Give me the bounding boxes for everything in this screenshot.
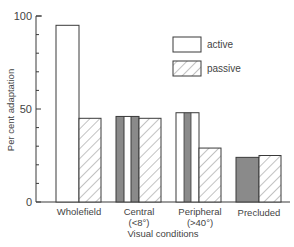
- legend-label-active: active: [207, 39, 234, 50]
- bars: [56, 25, 281, 202]
- y-tick-label-0: 0: [26, 196, 32, 208]
- legend: active passive: [173, 37, 241, 76]
- y-axis-label: Per cent adaptation: [5, 69, 16, 151]
- bar-passive-wholefield: [79, 118, 101, 202]
- x-category-peripheral: Peripheral: [178, 206, 221, 217]
- y-ticks: [36, 16, 41, 202]
- x-axis: Wholefield Central (<8°) Peripheral (>40…: [36, 202, 290, 239]
- x-category-peripheral-sub: (>40°): [187, 217, 213, 228]
- x-axis-label: Visual conditions: [127, 228, 198, 239]
- bar-passive-peripheral: [199, 148, 221, 202]
- bar-passive-central: [139, 118, 161, 202]
- y-tick-label-100: 100: [14, 10, 32, 22]
- x-category-central: Central: [124, 206, 155, 217]
- x-category-precluded: Precluded: [238, 207, 281, 218]
- x-category-central-sub: (<8°): [129, 217, 150, 228]
- bar-chart: 100 50 0 Per cent adaptation Wholefield …: [0, 0, 294, 247]
- y-axis: 100 50 0 Per cent adaptation: [5, 10, 42, 208]
- legend-swatch-passive: [173, 61, 201, 76]
- legend-label-passive: passive: [207, 63, 241, 74]
- y-tick-label-50: 50: [20, 103, 32, 115]
- legend-swatch-active: [173, 37, 201, 52]
- bar-active-precluded: [236, 157, 259, 202]
- x-category-wholefield: Wholefield: [57, 206, 101, 217]
- bar-passive-precluded: [259, 156, 281, 203]
